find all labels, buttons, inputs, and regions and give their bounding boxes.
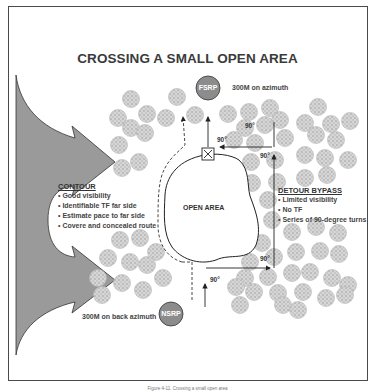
diagram-title: CROSSING A SMALL OPEN AREA: [0, 51, 375, 66]
fsrp-label: FSRP: [196, 84, 220, 91]
contour-item: • Covere and concealed route: [58, 221, 156, 231]
figure-caption: Figure 4-11. Crossing a small open area: [0, 386, 375, 391]
contour-legend: CONTOUR • Good visibility • Identifiable…: [58, 182, 156, 231]
contour-item: • Good visibility: [58, 191, 156, 201]
nsrp-note: 300M on back azimuth: [82, 313, 156, 320]
fsrp-note: 300M on azimuth: [232, 84, 288, 91]
angle-label: 90°: [210, 276, 220, 283]
detour-heading: DETOUR BYPASS: [278, 186, 366, 195]
detour-legend: DETOUR BYPASS • Limited visibility • No …: [278, 186, 366, 225]
detour-item: • Series of 90-degree turns: [278, 215, 366, 225]
detour-item: • No TF: [278, 205, 366, 215]
angle-label: 90°: [245, 122, 255, 129]
open-area-label: OPEN AREA: [183, 204, 224, 211]
angle-label: 90°: [260, 255, 270, 262]
angle-label: 90°: [260, 152, 270, 159]
contour-item: • Identifiable TF far side: [58, 201, 156, 211]
nsrp-label: NSRP: [159, 310, 183, 317]
angle-label: 90°: [217, 136, 227, 143]
detour-item: • Limited visibility: [278, 195, 366, 205]
contour-heading: CONTOUR: [58, 182, 156, 191]
contour-item: • Estimate pace to far side: [58, 211, 156, 221]
